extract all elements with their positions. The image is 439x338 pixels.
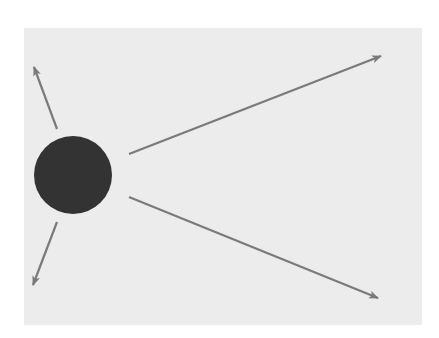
- arrow-lower-right: [129, 197, 378, 298]
- diagram-canvas: [0, 0, 439, 338]
- arrow-upper-left: [34, 67, 57, 129]
- arrow-lower-left: [33, 222, 57, 285]
- central-body-circle: [34, 136, 112, 214]
- arrow-upper-right: [129, 56, 381, 154]
